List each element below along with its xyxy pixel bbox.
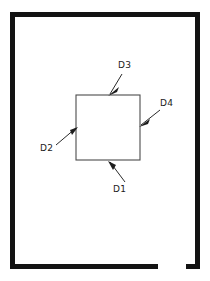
inner-square: [76, 95, 140, 160]
frame-right-segment: [195, 12, 200, 269]
callout-d4-leader: [141, 110, 160, 125]
callout-d1: D1: [108, 161, 126, 194]
callout-d3-label: D3: [118, 60, 131, 70]
frame-bottom-left-segment: [10, 264, 158, 269]
technical-drawing: D1 D2 D3 D4: [0, 0, 210, 281]
frame-top-segment: [10, 12, 200, 17]
frame-bottom-right-segment: [186, 264, 200, 269]
callout-d2-arrowhead: [70, 127, 78, 135]
callout-d1-label: D1: [113, 184, 126, 194]
callout-d4-arrowhead: [139, 119, 150, 127]
callout-d2-label: D2: [40, 143, 53, 153]
diagram-canvas: D1 D2 D3 D4: [0, 0, 210, 281]
callout-d2: D2: [40, 127, 78, 153]
callout-d4-label: D4: [160, 98, 173, 108]
callout-d3: D3: [108, 60, 131, 96]
frame-left-segment: [10, 12, 15, 269]
callout-d4: D4: [139, 98, 173, 127]
